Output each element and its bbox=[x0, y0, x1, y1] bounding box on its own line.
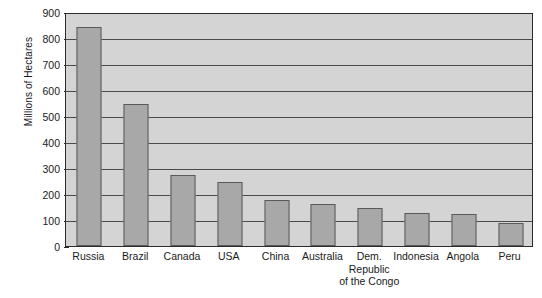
bar-slot bbox=[253, 14, 300, 246]
y-axis-tick-400: 400 bbox=[18, 138, 60, 148]
y-axis-tick-700: 700 bbox=[18, 60, 60, 70]
bar[interactable] bbox=[264, 200, 289, 246]
bar-slot bbox=[113, 14, 160, 246]
y-axis-tick-800: 800 bbox=[18, 34, 60, 44]
bar[interactable] bbox=[170, 175, 195, 246]
x-axis-tick-line: of the Congo bbox=[332, 275, 407, 288]
y-axis-tick-mark-0 bbox=[64, 247, 69, 248]
bar[interactable] bbox=[311, 204, 336, 246]
x-axis-tick-line: Republic bbox=[332, 263, 407, 276]
bar[interactable] bbox=[498, 223, 523, 246]
bar-slot bbox=[66, 14, 113, 246]
bar-chart: Millions of Hectares 9008007006005004003… bbox=[0, 0, 542, 298]
y-axis-tick-300: 300 bbox=[18, 164, 60, 174]
y-axis-tick-labels: 9008007006005004003002001000 bbox=[18, 13, 60, 247]
y-axis-tick-200: 200 bbox=[18, 190, 60, 200]
bar-slot bbox=[440, 14, 487, 246]
bar-slot bbox=[347, 14, 394, 246]
x-axis-tick-label: Peru bbox=[472, 250, 542, 263]
bar-slot bbox=[300, 14, 347, 246]
bars-layer bbox=[66, 14, 532, 246]
y-axis-tick-900: 900 bbox=[18, 8, 60, 18]
bar[interactable] bbox=[77, 27, 102, 246]
bar-slot bbox=[394, 14, 441, 246]
bar-slot bbox=[487, 14, 534, 246]
x-axis-tick-line: Peru bbox=[472, 250, 542, 263]
x-axis-tick-labels: RussiaBrazilCanadaUSAChinaAustraliaDem.R… bbox=[65, 250, 533, 296]
bar[interactable] bbox=[124, 104, 149, 246]
bar[interactable] bbox=[217, 182, 242, 246]
plot-area bbox=[65, 13, 533, 247]
bar[interactable] bbox=[451, 214, 476, 246]
bar-slot bbox=[206, 14, 253, 246]
bar[interactable] bbox=[358, 208, 383, 246]
y-axis-tick-600: 600 bbox=[18, 86, 60, 96]
bar[interactable] bbox=[404, 213, 429, 246]
y-axis-tick-100: 100 bbox=[18, 216, 60, 226]
y-axis-tick-500: 500 bbox=[18, 112, 60, 122]
bar-slot bbox=[160, 14, 207, 246]
